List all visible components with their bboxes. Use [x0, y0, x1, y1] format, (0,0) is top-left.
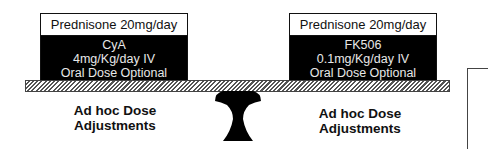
- cropped-legend-box: [467, 68, 488, 149]
- right-caption-line1: Ad hoc Dose: [300, 106, 420, 121]
- left-caption-line2: Adjustments: [55, 118, 175, 133]
- right-caption: Ad hoc Dose Adjustments: [300, 106, 420, 136]
- left-drug-note: Oral Dose Optional: [41, 66, 187, 80]
- right-weight-body: FK506 0.1mg/Kg/day IV Oral Dose Optional: [290, 36, 436, 80]
- right-weight-box: Prednisone 20mg/day FK506 0.1mg/Kg/day I…: [289, 13, 437, 82]
- right-drug-name: FK506: [290, 38, 436, 52]
- left-weight-body: CyA 4mg/Kg/day IV Oral Dose Optional: [41, 36, 187, 80]
- right-weight-header: Prednisone 20mg/day: [290, 14, 436, 36]
- left-weight-header: Prednisone 20mg/day: [41, 14, 187, 36]
- right-drug-note: Oral Dose Optional: [290, 66, 436, 80]
- right-caption-line2: Adjustments: [300, 121, 420, 136]
- left-drug-name: CyA: [41, 38, 187, 52]
- right-drug-dose: 0.1mg/Kg/day IV: [290, 52, 436, 66]
- fulcrum-icon: [215, 91, 261, 141]
- left-weight-box: Prednisone 20mg/day CyA 4mg/Kg/day IV Or…: [40, 13, 188, 82]
- left-caption-line1: Ad hoc Dose: [55, 103, 175, 118]
- left-caption: Ad hoc Dose Adjustments: [55, 103, 175, 133]
- left-drug-dose: 4mg/Kg/day IV: [41, 52, 187, 66]
